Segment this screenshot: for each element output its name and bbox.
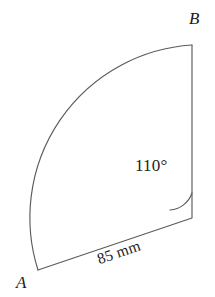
angle-marker-arc — [170, 193, 192, 210]
sector-arc — [30, 45, 192, 270]
vertex-label-b: B — [189, 10, 199, 27]
vertex-label-a: A — [16, 274, 26, 291]
angle-measure-label: 110° — [135, 157, 167, 174]
radius-line-vertical — [38, 45, 192, 270]
geometry-figure: A B 110° 85 mm — [0, 0, 215, 297]
